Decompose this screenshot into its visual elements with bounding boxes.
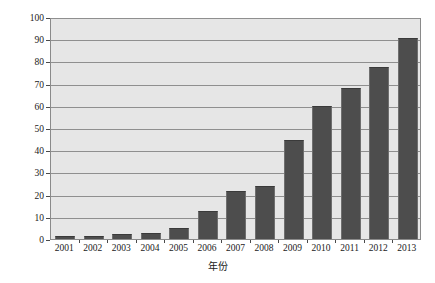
bar xyxy=(84,236,104,239)
bar xyxy=(198,211,218,239)
bar-slot xyxy=(393,19,422,239)
bar xyxy=(369,67,389,239)
bar xyxy=(226,191,246,239)
bar xyxy=(55,236,75,239)
bar-slot xyxy=(80,19,109,239)
bar-slot xyxy=(336,19,365,239)
x-tick-mark xyxy=(164,240,165,243)
bar xyxy=(284,140,304,239)
bar-slot xyxy=(165,19,194,239)
x-tick-mark xyxy=(335,240,336,243)
bar-slot xyxy=(308,19,337,239)
y-tick-label: 0 xyxy=(14,235,44,245)
y-tick-mark xyxy=(46,240,50,241)
bar-slot xyxy=(137,19,166,239)
bar xyxy=(341,88,361,239)
bar xyxy=(398,38,418,239)
x-tick-mark xyxy=(392,240,393,243)
y-tick-label: 60 xyxy=(14,102,44,112)
bar-slot xyxy=(108,19,137,239)
y-tick-label: 50 xyxy=(14,124,44,134)
x-tick-mark xyxy=(250,240,251,243)
x-tick-mark xyxy=(307,240,308,243)
y-tick-label: 100 xyxy=(14,13,44,23)
x-tick-mark xyxy=(364,240,365,243)
bar xyxy=(169,228,189,239)
y-tick-label: 40 xyxy=(14,146,44,156)
y-tick-label: 70 xyxy=(14,80,44,90)
bar-slot xyxy=(222,19,251,239)
bar-slot xyxy=(279,19,308,239)
x-tick-mark xyxy=(107,240,108,243)
bar-slot xyxy=(51,19,80,239)
x-tick-mark xyxy=(79,240,80,243)
bar xyxy=(112,234,132,239)
x-tick-mark xyxy=(136,240,137,243)
x-tick-label: 2013 xyxy=(390,243,424,254)
bar-slot xyxy=(251,19,280,239)
y-tick-label: 30 xyxy=(14,168,44,178)
x-axis-title: 年份 xyxy=(0,258,435,273)
x-tick-mark xyxy=(278,240,279,243)
y-tick-label: 20 xyxy=(14,191,44,201)
y-tick-label: 10 xyxy=(14,213,44,223)
x-tick-mark xyxy=(221,240,222,243)
bar-slot xyxy=(365,19,394,239)
x-tick-mark xyxy=(193,240,194,243)
plot-area xyxy=(50,18,421,240)
bar-chart: 海水淡化产水规模(万吨/日) 0102030405060708090100 20… xyxy=(0,0,435,283)
bar xyxy=(312,106,332,239)
bar xyxy=(255,186,275,239)
y-tick-label: 80 xyxy=(14,57,44,67)
bar xyxy=(141,233,161,239)
bar-slot xyxy=(194,19,223,239)
y-tick-label: 90 xyxy=(14,35,44,45)
